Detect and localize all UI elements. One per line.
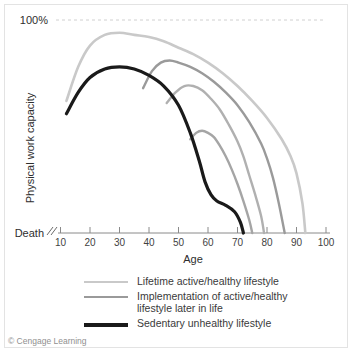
x-tick-label: 50 <box>173 237 185 248</box>
x-tick-label: 10 <box>55 237 67 248</box>
legend-label: Sedentary unhealthy lifestyle <box>137 317 271 330</box>
legend-item[interactable]: Sedentary unhealthy lifestyle <box>84 317 334 330</box>
x-tick-label: 30 <box>114 237 126 248</box>
chart-legend: Lifetime active/healthy lifestyle Implem… <box>84 275 334 331</box>
legend-label: Lifetime active/healthy lifestyle <box>137 275 279 288</box>
x-tick-label: 60 <box>202 237 214 248</box>
curve-sedentary-unhealthy-lifestyle <box>66 67 243 233</box>
x-tick-label: 90 <box>291 237 303 248</box>
legend-swatch <box>84 323 128 327</box>
curve-lifetime-active-healthy-lifestyle <box>66 33 305 233</box>
y-top-label: 100% <box>20 14 48 26</box>
figure-container: 10 20 30 40 50 60 70 80 90 100 Age Physi… <box>0 0 352 352</box>
legend-item[interactable]: Implementation of active/healthy lifesty… <box>84 290 334 315</box>
x-axis-ticks <box>61 227 327 233</box>
x-tick-label: 100 <box>318 237 335 248</box>
legend-label: Implementation of active/healthy lifesty… <box>137 290 288 315</box>
x-tick-label: 70 <box>232 237 244 248</box>
y-axis-title: Physical work capacity <box>24 92 36 203</box>
legend-swatch <box>84 296 128 298</box>
curve-implementation-of-active-healthy-lifestyle-later-in-life-short-branch <box>190 131 252 233</box>
x-tick-label: 40 <box>143 237 155 248</box>
x-tick-label: 80 <box>261 237 273 248</box>
y-bottom-label: Death <box>15 227 44 239</box>
x-tick-label: 20 <box>84 237 96 248</box>
legend-item[interactable]: Lifetime active/healthy lifestyle <box>84 275 334 288</box>
x-axis-title: Age <box>183 253 203 265</box>
copyright-credit: © Cengage Learning <box>8 336 87 346</box>
legend-swatch <box>84 281 128 283</box>
data-curves <box>66 33 305 233</box>
